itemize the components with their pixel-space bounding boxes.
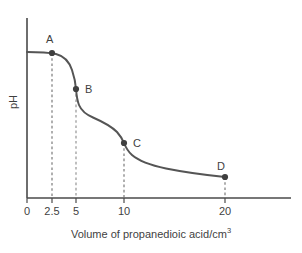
y-axis-title: pH	[7, 91, 19, 113]
axes-group	[27, 18, 291, 198]
data-point-a	[49, 50, 55, 56]
x-axis-title-superscript: 3	[227, 226, 231, 235]
data-point-b	[73, 86, 79, 92]
point-label-c: C	[133, 137, 141, 149]
data-point-d	[222, 174, 228, 180]
x-tick-label-0: 0	[17, 205, 37, 217]
data-point-c	[121, 140, 127, 146]
x-tick-label-2point5: 2.5	[40, 205, 64, 217]
chart-container: A B C D 0 2.5 5 10 20 pH Volume of propa…	[0, 0, 302, 253]
point-label-d: D	[217, 160, 225, 172]
x-axis-title-text: Volume of propanedioic acid/cm	[71, 228, 227, 240]
x-axis-title: Volume of propanedioic acid/cm3	[0, 228, 302, 240]
x-tick-label-20: 20	[213, 205, 237, 217]
point-label-b: B	[85, 83, 92, 95]
x-tick-label-10: 10	[112, 205, 136, 217]
x-tick-label-5: 5	[66, 205, 86, 217]
dashed-droplines-group	[52, 53, 225, 198]
titration-curve	[27, 52, 225, 177]
point-label-a: A	[46, 33, 53, 45]
